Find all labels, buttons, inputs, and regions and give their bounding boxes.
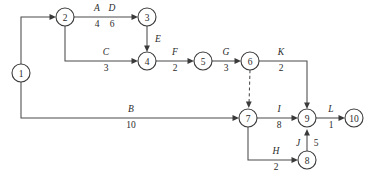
arrow-head-D — [132, 14, 139, 20]
edge-label-name-F: F — [171, 47, 178, 57]
node-3[interactable]: 3 — [138, 8, 156, 26]
arrow-head-L — [339, 115, 346, 121]
arrow-head-E — [144, 46, 150, 53]
arrow-head-B — [233, 115, 240, 121]
edge-label-duration-L: 1 — [329, 120, 334, 130]
arrow-head-G — [235, 58, 242, 64]
edge-label-duration-H: 2 — [274, 162, 279, 172]
node-6[interactable]: 6 — [241, 52, 259, 70]
node-label-2: 2 — [63, 13, 68, 23]
edge-label-name-B: B — [128, 104, 134, 114]
node-label-10: 10 — [349, 114, 359, 124]
edge-label-name-K: K — [277, 47, 285, 57]
edge-label-duration-B: 10 — [126, 120, 136, 130]
edge-label-name-D: D — [108, 3, 116, 13]
edge-label-duration-C: 3 — [104, 63, 109, 73]
edge-label-duration-D: 6 — [110, 19, 115, 29]
edge-label-name-E: E — [154, 34, 161, 44]
edge-label-group: A 4 D 6 C 3 E F 2 G 3 K 2 B 10 I 8 L 1 H… — [93, 3, 334, 172]
arrow-head-F — [188, 58, 195, 64]
edge-label-name-H: H — [272, 146, 281, 156]
node-2[interactable]: 2 — [56, 8, 74, 26]
edge-path-dummy-6-7 — [249, 70, 250, 105]
edge-label-name-G: G — [223, 47, 230, 57]
node-label-8: 8 — [305, 156, 310, 166]
node-label-1: 1 — [19, 69, 24, 79]
arrow-head-A — [50, 14, 57, 20]
node-7[interactable]: 7 — [239, 109, 257, 127]
edge-label-name-L: L — [327, 104, 333, 114]
node-10[interactable]: 10 — [345, 109, 363, 127]
arrow-head-dummy-6-7 — [246, 102, 252, 109]
edge-path-A — [21, 17, 54, 64]
edge-label-name-A: A — [93, 3, 100, 13]
arrow-head-I — [292, 115, 299, 121]
node-label-4: 4 — [145, 57, 150, 67]
edge-label-duration-K: 2 — [279, 63, 284, 73]
node-label-7: 7 — [246, 114, 251, 124]
arrow-head-J — [304, 129, 310, 136]
edge-label-name-I: I — [276, 104, 281, 114]
node-label-6: 6 — [248, 57, 253, 67]
node-label-9: 9 — [305, 114, 310, 124]
node-label-3: 3 — [145, 13, 150, 23]
node-8[interactable]: 8 — [298, 151, 316, 169]
edge-label-name-C: C — [103, 47, 110, 57]
edge-label-duration-A: 4 — [95, 19, 100, 29]
edge-label-duration-F: 2 — [173, 63, 178, 73]
node-1[interactable]: 1 — [12, 64, 30, 82]
network-diagram-canvas: A 4 D 6 C 3 E F 2 G 3 K 2 B 10 I 8 L 1 H… — [0, 0, 371, 182]
arrow-head-K — [304, 103, 310, 110]
node-label-5: 5 — [201, 57, 206, 67]
edge-path-C — [65, 26, 136, 61]
network-diagram-svg: A 4 D 6 C 3 E F 2 G 3 K 2 B 10 I 8 L 1 H… — [0, 0, 371, 182]
edge-label-duration-J: 5 — [314, 138, 319, 148]
arrow-head-H — [292, 157, 299, 163]
node-5[interactable]: 5 — [194, 52, 212, 70]
edge-label-duration-G: 3 — [224, 63, 229, 73]
node-9[interactable]: 9 — [298, 109, 316, 127]
edge-label-duration-I: 8 — [277, 120, 282, 130]
node-4[interactable]: 4 — [138, 52, 156, 70]
edge-label-name-J: J — [296, 138, 301, 148]
arrow-head-C — [132, 58, 139, 64]
